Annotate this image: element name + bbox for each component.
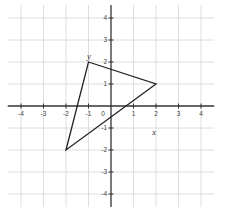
x-tick-label: 1 — [132, 110, 136, 117]
y-tick-label: -3 — [101, 168, 107, 175]
x-axis-label: x — [151, 127, 156, 137]
y-tick-label: 1 — [103, 80, 107, 87]
x-tick-label: -4 — [18, 110, 24, 117]
x-tick-label: -2 — [63, 110, 69, 117]
x-tick-label: 3 — [177, 110, 181, 117]
x-tick-label: 0 — [101, 110, 105, 117]
axes — [8, 5, 215, 207]
y-tick-label: 3 — [103, 36, 107, 43]
coordinate-plane: -4-3-2-1012344321-1-2-3-4 y x — [0, 0, 225, 211]
y-tick-label: -1 — [101, 124, 107, 131]
y-axis-label: y — [86, 51, 91, 61]
x-tick-label: 4 — [199, 110, 203, 117]
y-tick-label: -2 — [101, 146, 107, 153]
x-tick-label: 2 — [154, 110, 158, 117]
y-tick-label: 4 — [103, 14, 107, 21]
x-tick-label: -1 — [86, 110, 92, 117]
y-tick-label: -4 — [101, 190, 107, 197]
x-tick-label: -3 — [41, 110, 47, 117]
y-tick-label: 2 — [103, 58, 107, 65]
